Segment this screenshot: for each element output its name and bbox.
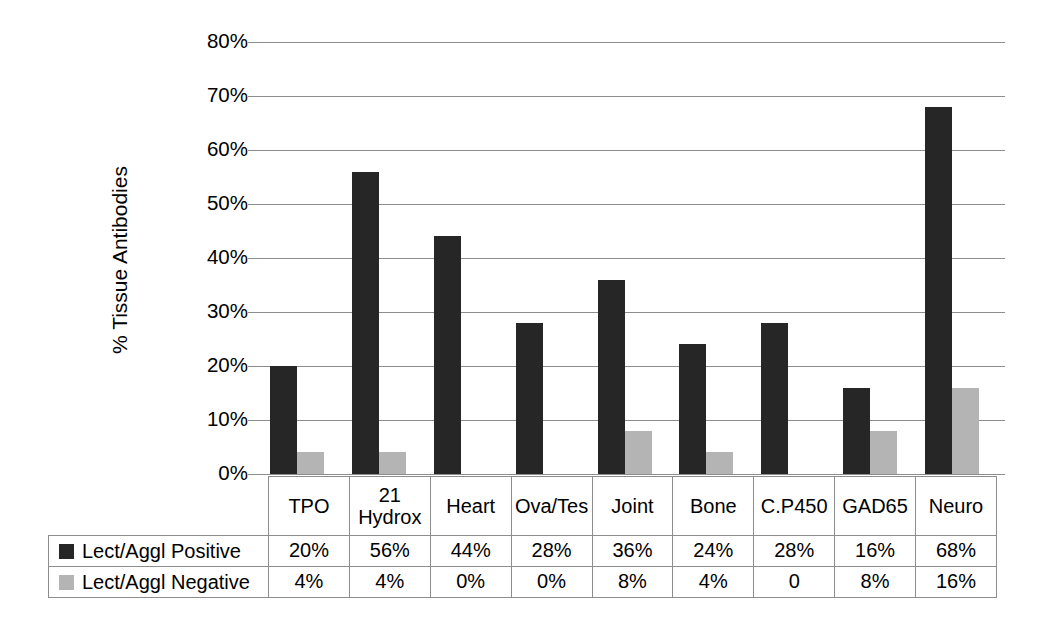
table-cell: 0: [754, 567, 835, 598]
legend-label-text: Lect/Aggl Negative: [82, 571, 250, 593]
column-header: GAD65: [835, 477, 916, 536]
bar-group: [432, 42, 514, 474]
bar-group: [759, 42, 841, 474]
y-tick-label: 20%: [182, 355, 248, 376]
column-header: Neuro: [916, 477, 997, 536]
bar-positive: [761, 323, 788, 474]
table-cell: 4%: [269, 567, 350, 598]
y-tick-label: 70%: [182, 85, 248, 106]
table-cell: 4%: [349, 567, 430, 598]
column-header: C.P450: [754, 477, 835, 536]
gridline-0: [248, 474, 1005, 475]
bar-positive: [352, 172, 379, 474]
y-tick-label: 80%: [182, 31, 248, 52]
table-cell: 24%: [673, 536, 754, 567]
bar-group: [677, 42, 759, 474]
table-cell: 16%: [835, 536, 916, 567]
column-header-line2: Hydrox: [350, 506, 430, 528]
legend-label-text: Lect/Aggl Positive: [82, 540, 241, 562]
bar-negative: [379, 452, 406, 474]
table-cell: 28%: [511, 536, 592, 567]
table-cell: 56%: [349, 536, 430, 567]
table-cell: 4%: [673, 567, 754, 598]
table-cell: 16%: [916, 567, 997, 598]
column-header-line1: Heart: [431, 495, 511, 517]
data-table: TPO21HydroxHeartOva/TesJointBoneC.P450GA…: [48, 476, 997, 598]
bar-group: [350, 42, 432, 474]
negative-swatch: [59, 575, 74, 590]
bar-group: [923, 42, 1005, 474]
column-header: Heart: [430, 477, 511, 536]
bar-negative: [706, 452, 733, 474]
bars-layer: [268, 42, 1005, 474]
bar-positive: [679, 344, 706, 474]
legend-row-label: Lect/Aggl Positive: [49, 536, 269, 567]
bar-group: [268, 42, 350, 474]
table-cell: 44%: [430, 536, 511, 567]
plot-area: 80%70%60%50%40%30%20%10%0%: [268, 42, 1005, 474]
table-row: Lect/Aggl Positive20%56%44%28%36%24%28%1…: [49, 536, 997, 567]
bar-negative: [625, 431, 652, 474]
table-cell: 0%: [430, 567, 511, 598]
y-tick-label: 10%: [182, 409, 248, 430]
legend-row-label: Lect/Aggl Negative: [49, 567, 269, 598]
bar-group: [841, 42, 923, 474]
column-header: TPO: [269, 477, 350, 536]
y-tick-label: 40%: [182, 247, 248, 268]
bar-positive: [434, 236, 461, 474]
bar-positive: [843, 388, 870, 474]
table-cell: 36%: [592, 536, 673, 567]
column-header-line1: Neuro: [916, 495, 996, 517]
bar-negative: [870, 431, 897, 474]
column-header-line1: GAD65: [835, 495, 915, 517]
bar-negative: [297, 452, 324, 474]
column-header: Joint: [592, 477, 673, 536]
table-cell: 8%: [592, 567, 673, 598]
chart-root: % Tissue Antibodies 80%70%60%50%40%30%20…: [0, 0, 1046, 636]
bar-positive: [598, 280, 625, 474]
table-cell: 8%: [835, 567, 916, 598]
table-row: Lect/Aggl Negative4%4%0%0%8%4%08%16%: [49, 567, 997, 598]
column-header: Ova/Tes: [511, 477, 592, 536]
bar-group: [596, 42, 678, 474]
column-header-line1: TPO: [269, 495, 349, 517]
bar-group: [514, 42, 596, 474]
positive-swatch: [59, 544, 74, 559]
column-header-line1: 21: [350, 484, 430, 506]
table-corner-cell: [49, 477, 269, 536]
y-axis-title: % Tissue Antibodies: [108, 100, 132, 420]
table-cell: 20%: [269, 536, 350, 567]
bar-positive: [925, 107, 952, 474]
column-header: Bone: [673, 477, 754, 536]
column-header-line1: Bone: [673, 495, 753, 517]
column-header-line1: Ova/Tes: [512, 495, 592, 517]
column-header-line1: C.P450: [754, 495, 834, 517]
table-cell: 28%: [754, 536, 835, 567]
y-tick-label: 50%: [182, 193, 248, 214]
table-header-row: TPO21HydroxHeartOva/TesJointBoneC.P450GA…: [49, 477, 997, 536]
column-header: 21Hydrox: [349, 477, 430, 536]
bar-positive: [516, 323, 543, 474]
column-header-line1: Joint: [593, 495, 673, 517]
table-cell: 68%: [916, 536, 997, 567]
table-cell: 0%: [511, 567, 592, 598]
y-tick-label: 30%: [182, 301, 248, 322]
bar-negative: [952, 388, 979, 474]
bar-positive: [270, 366, 297, 474]
y-tick-label: 60%: [182, 139, 248, 160]
